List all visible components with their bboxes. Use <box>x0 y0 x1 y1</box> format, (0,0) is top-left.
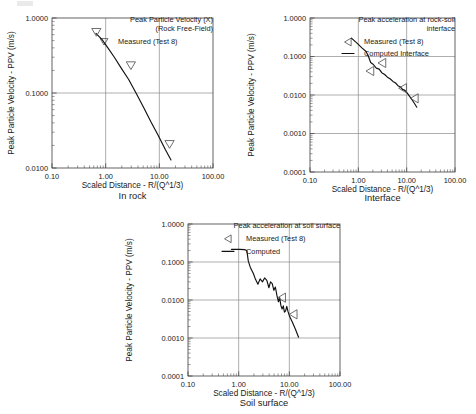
ytick-label: 0.1000 <box>25 89 48 98</box>
ytick-label: 0.0010 <box>161 334 184 343</box>
plot-chart3: 0.101.0010.00100.001.00000.10000.01000.0… <box>110 200 360 414</box>
figure-caption: Soil surface <box>240 398 289 408</box>
series-line-computed <box>96 33 171 160</box>
data-marker-triangle-down <box>92 28 101 36</box>
xtick-label: 0.10 <box>181 380 195 389</box>
plot-chart2: 0.101.0010.00100.001.00000.10000.01000.0… <box>238 0 476 207</box>
data-marker-triangle-left <box>345 38 352 46</box>
ytick-label: 0.0100 <box>161 296 184 305</box>
legend-label: Measured (Test 8) <box>246 234 306 243</box>
ytick-label: 0.0100 <box>25 164 48 173</box>
plot-title-line: Peak acceleration at rock-soil <box>358 15 455 24</box>
xtick-label: 10.00 <box>280 380 299 389</box>
x-axis-label: Scaled Distance - R/(Q^1/3) <box>82 181 184 190</box>
x-axis-label: Scaled Distance - R/(Q^1/3) <box>213 389 315 398</box>
xtick-label: 10.00 <box>397 176 416 185</box>
ytick-label: 0.0001 <box>161 372 184 381</box>
data-marker-triangle-left <box>225 235 232 243</box>
plot-title-line: Peak Particle Velocity (X) <box>130 15 213 24</box>
figure-in-rock: 0.101.0010.00100.001.00000.10000.0100Sca… <box>0 0 238 207</box>
figure-interface: 0.101.0010.00100.001.00000.10000.01000.0… <box>238 0 476 207</box>
legend-label: Measured (Test 8) <box>364 37 424 46</box>
data-marker-triangle-down <box>165 141 174 149</box>
xtick-label: 0.10 <box>303 176 317 185</box>
ytick-label: 0.1000 <box>161 258 184 267</box>
xtick-label: 1.00 <box>351 176 365 185</box>
ytick-label: 0.0010 <box>283 129 306 138</box>
legend-label: Computed Interface <box>364 49 429 58</box>
plot-chart1: 0.101.0010.00100.001.00000.10000.0100Sca… <box>0 0 238 207</box>
series-line-computed <box>231 249 298 337</box>
ytick-label: 0.0001 <box>283 168 306 177</box>
xtick-label: 1.00 <box>231 380 245 389</box>
ytick-label: 1.0000 <box>283 14 306 23</box>
xtick-label: 10.00 <box>150 172 169 181</box>
y-axis-label: Peak Particle Velocity - PPV (m/s) <box>125 238 134 362</box>
legend-label: Computed <box>246 247 280 256</box>
xtick-label: 100.00 <box>444 176 467 185</box>
ytick-label: 0.1000 <box>283 52 306 61</box>
legend-label: Measured (Test 8) <box>118 37 178 46</box>
y-axis-label: Peak Particle Velocity - PPV (m/s) <box>7 31 16 155</box>
figure-caption: Interface <box>364 193 400 203</box>
plot-title-line: (Rock Free-Field) <box>156 24 214 33</box>
xtick-label: 100.00 <box>329 380 352 389</box>
data-marker-triangle-left <box>378 58 386 67</box>
ytick-label: 0.0100 <box>283 91 306 100</box>
data-marker-triangle-down <box>126 62 135 70</box>
data-marker-triangle-left <box>366 66 374 75</box>
y-axis-label: Peak Particle Velocity - PPV (m/s) <box>247 33 256 157</box>
xtick-label: 1.00 <box>98 172 112 181</box>
xtick-label: 100.00 <box>202 172 225 181</box>
ytick-label: 1.0000 <box>25 14 48 23</box>
plot-title-line: Peak acceleration at soil surface <box>234 221 340 230</box>
figure-soil-surface: 0.101.0010.00100.001.00000.10000.01000.0… <box>110 200 360 414</box>
xtick-label: 0.10 <box>45 172 59 181</box>
ytick-label: 1.0000 <box>161 220 184 229</box>
plot-title-line: interface <box>427 24 455 33</box>
